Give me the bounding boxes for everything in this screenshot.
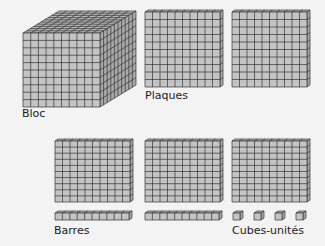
plaque-4 [145, 139, 223, 202]
base-ten-blocks-diagram [0, 0, 325, 246]
bloc-cube [23, 11, 136, 107]
label-barres: Barres [54, 225, 89, 236]
cube-unite-1 [233, 211, 243, 220]
barre-1 [55, 211, 132, 220]
cube-unite-4 [296, 211, 306, 220]
label-plaques: Plaques [145, 90, 188, 101]
label-bloc: Bloc [22, 108, 45, 119]
cube-unite-3 [275, 211, 285, 220]
barre-2 [145, 211, 222, 220]
label-cubes-unites: Cubes-unités [232, 225, 304, 236]
plaque-5 [232, 139, 310, 202]
plaque-1 [145, 10, 223, 87]
cube-unite-2 [254, 211, 264, 220]
plaque-2 [232, 10, 310, 87]
plaque-3 [55, 139, 133, 202]
